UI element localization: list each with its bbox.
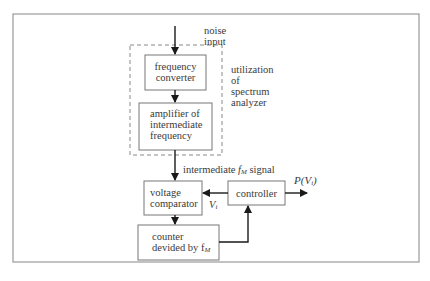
signal-prefix: intermediate <box>183 164 238 175</box>
freq-conv-line1: frequency <box>145 61 206 72</box>
signal-suffix: signal <box>247 164 275 175</box>
out-suffix: ) <box>313 174 317 186</box>
counter-label: counter devided by fM <box>152 231 210 256</box>
vi-sub: i <box>215 203 217 211</box>
counter-sub: M <box>205 246 211 254</box>
group-label-line2: of <box>231 75 274 86</box>
group-label-line1: utilization <box>231 64 274 75</box>
voltage-comparator-label: voltage comparator <box>150 187 198 209</box>
noise-input-line1: noise <box>204 25 226 36</box>
group-label-line4: analyzer <box>231 97 274 108</box>
counter-line1: counter <box>152 231 210 242</box>
amp-line2: intermediate <box>150 119 202 130</box>
amp-line1: amplifier of <box>150 108 202 119</box>
out-prefix: P( <box>294 174 304 186</box>
noise-input-line2: input <box>204 36 226 47</box>
counter-line2-text: devided by f <box>152 242 205 253</box>
intermediate-signal-label: intermediate fM signal <box>183 164 275 178</box>
group-label-line3: spectrum <box>231 86 274 97</box>
controller-text: controller <box>236 188 277 199</box>
amp-line3: frequency <box>150 130 202 141</box>
vi-label: Vi <box>209 199 217 213</box>
controller-label: controller <box>228 188 285 199</box>
noise-input-label: noise input <box>204 25 226 47</box>
counter-to-controller-arrow <box>219 206 248 242</box>
comp-line1: voltage <box>150 187 198 198</box>
if-amplifier-label: amplifier of intermediate frequency <box>150 108 202 141</box>
counter-line2: devided by fM <box>152 242 210 256</box>
freq-conv-line2: converter <box>145 72 206 83</box>
spectrum-analyzer-label: utilization of spectrum analyzer <box>231 64 274 108</box>
output-label: P(Vi) <box>294 175 317 189</box>
comp-line2: comparator <box>150 198 198 209</box>
frequency-converter-label: frequency converter <box>145 61 206 83</box>
